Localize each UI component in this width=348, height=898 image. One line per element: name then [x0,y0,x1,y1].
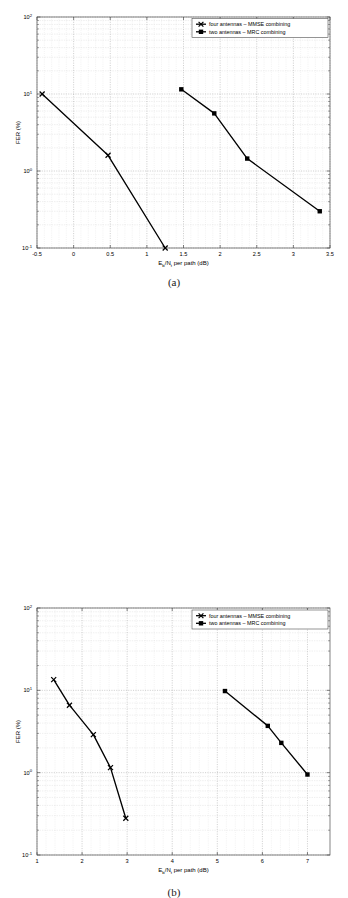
x-tick-label: 3.5 [326,251,334,257]
panel-caption-a: (a) [0,276,348,288]
x-tick-label: 1 [35,858,38,864]
y-tick-label: 10-1 [22,851,33,858]
legend-label-mrc: two antennas – MRC combining [209,620,285,626]
square-marker [223,689,227,693]
square-marker [266,724,270,728]
x-tick-label: -0.5 [32,251,42,257]
x-axis-title: Eb/Nt per path (dB) [158,260,208,268]
x-tick-label: 0.5 [106,251,114,257]
x-tick-label: 2 [219,251,222,257]
square-marker [212,111,216,115]
y-tick-label: 102 [23,13,32,20]
x-tick-label: 3 [292,251,295,257]
x-tick-labels: 1234567 [35,858,309,864]
x-axis-title: Eb/Nt per path (dB) [158,867,208,875]
plot-area-a: four antennas – MMSE combiningtwo antenn… [0,0,348,275]
x-tick-label: 2.5 [253,251,261,257]
x-tick-label: 3 [126,858,129,864]
x-tick-labels: -0.500.511.522.533.5 [32,251,334,257]
square-marker [305,772,309,776]
x-tick-label: 1 [145,251,148,257]
y-tick-label: 100 [23,768,32,775]
x-tick-label: 7 [306,858,309,864]
y-axis-title: FER (%) [15,720,21,743]
plot-area-b: four antennas – MMSE combiningtwo antenn… [0,300,348,880]
square-marker [199,621,203,625]
x-tick-label: 1.5 [180,251,188,257]
square-marker [279,741,283,745]
x-tick-label: 0 [72,251,75,257]
legend-label-mmse: four antennas – MMSE combining [209,613,290,619]
y-axis-title: FER (%) [15,121,21,144]
legend-label-mmse: four antennas – MMSE combining [209,21,290,27]
panel-caption-b: (b) [0,886,348,898]
legend-label-mrc: two antennas – MRC combining [209,29,285,35]
y-tick-label: 102 [23,604,32,611]
y-tick-label: 100 [23,167,32,174]
x-tick-label: 5 [216,858,219,864]
x-tick-label: 2 [81,858,84,864]
square-marker [245,156,249,160]
legend: four antennas – MMSE combiningtwo antenn… [192,610,328,629]
y-tick-label: 10-1 [22,244,33,251]
x-tick-label: 6 [261,858,264,864]
y-tick-labels: 10-1100101102 [22,13,33,251]
chart-panel-a: four antennas – MMSE combiningtwo antenn… [0,0,348,300]
square-marker [179,87,183,91]
square-marker [318,209,322,213]
y-tick-label: 101 [23,90,32,97]
x-tick-label: 4 [171,858,174,864]
chart-svg-b: four antennas – MMSE combiningtwo antenn… [0,300,348,880]
legend: four antennas – MMSE combiningtwo antenn… [192,19,328,38]
chart-svg-a: four antennas – MMSE combiningtwo antenn… [0,0,348,275]
y-tick-label: 101 [23,686,32,693]
y-tick-labels: 10-1100101102 [22,604,33,858]
square-marker [199,30,203,34]
chart-panel-b: four antennas – MMSE combiningtwo antenn… [0,300,348,612]
